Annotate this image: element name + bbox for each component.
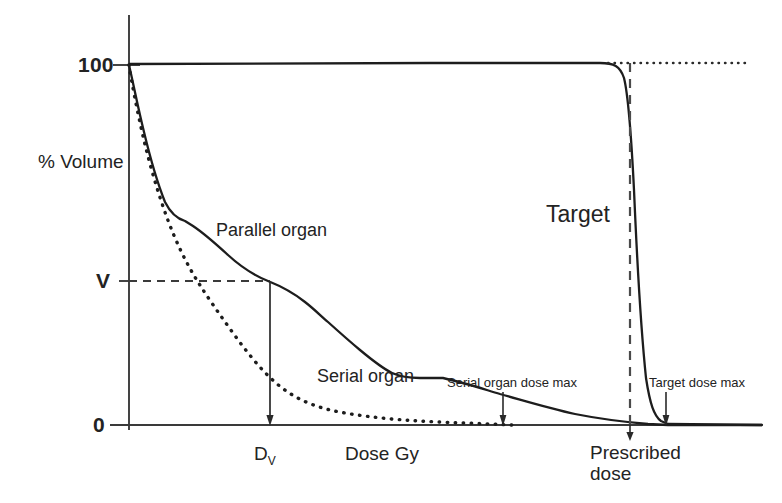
dv-label-base: D <box>254 443 268 464</box>
target-dose-max-label: Target dose max <box>649 376 745 389</box>
y-axis-title: % Volume <box>38 152 124 171</box>
dv-label: DV <box>254 444 276 467</box>
serial-organ-label: Serial organ <box>317 367 414 385</box>
prescribed-dose-label-line1: Prescribed <box>590 443 720 464</box>
y-axis-tick-label-0: 0 <box>93 414 105 435</box>
x-axis-title: Dose Gy <box>345 444 419 463</box>
prescribed-dose-arrowhead <box>626 432 633 441</box>
dv-label-subscript: V <box>268 454 276 468</box>
prescribed-dose-label: Prescribed dose <box>590 443 720 484</box>
serial-organ-dose-max-label: Serial organ dose max <box>447 376 577 389</box>
target-curve <box>129 63 762 425</box>
y-axis-tick-label-100: 100 <box>78 54 114 75</box>
dvh-figure: 100 V 0 % Volume Dose Gy Parallel organ … <box>0 0 782 503</box>
target-label: Target <box>546 203 610 226</box>
dvh-plot-svg <box>0 0 782 503</box>
prescribed-dose-label-line2: dose <box>590 464 720 485</box>
parallel-organ-label: Parallel organ <box>216 221 327 239</box>
y-axis-tick-label-v: V <box>96 270 110 291</box>
parallel-organ-curve <box>129 65 762 425</box>
